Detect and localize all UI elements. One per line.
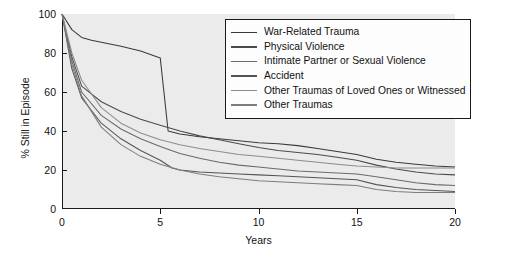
legend-label: War-Related Trauma: [264, 27, 359, 37]
legend-label: Other Traumas: [264, 100, 333, 110]
legend-swatch: [231, 90, 257, 92]
legend-label: Accident: [264, 71, 304, 81]
line-chart: 020406080100 05101520 % Still in Episode…: [0, 0, 508, 263]
x-tick-mark: [259, 209, 260, 214]
y-tick-label: 60: [44, 86, 56, 98]
x-tick-mark: [357, 209, 358, 214]
y-tick-mark: [62, 131, 67, 132]
legend-item: Accident: [231, 69, 464, 84]
legend-item: Intimate Partner or Sexual Violence: [231, 54, 464, 69]
legend-item: Physical Violence: [231, 40, 464, 55]
y-tick-mark: [62, 170, 67, 171]
y-tick-mark: [62, 53, 67, 54]
chart-legend: War-Related TraumaPhysical ViolenceIntim…: [225, 19, 471, 119]
y-tick-label: 0: [50, 203, 56, 215]
x-tick-label: 20: [449, 216, 461, 228]
legend-item: Other Traumas of Loved Ones or Witnessed: [231, 83, 464, 98]
legend-item: Other Traumas: [231, 98, 464, 113]
x-tick-mark: [160, 209, 161, 214]
x-tick-label: 15: [351, 216, 363, 228]
legend-swatch: [231, 75, 257, 77]
legend-label: Intimate Partner or Sexual Violence: [264, 56, 426, 66]
legend-item: War-Related Trauma: [231, 25, 464, 40]
y-tick-label: 40: [44, 125, 56, 137]
legend-swatch: [231, 61, 257, 63]
legend-swatch: [231, 32, 257, 34]
x-tick-mark: [455, 209, 456, 214]
y-axis-label: % Still in Episode: [19, 43, 31, 193]
legend-label: Other Traumas of Loved Ones or Witnessed: [264, 86, 465, 96]
legend-label: Physical Violence: [264, 42, 345, 52]
legend-swatch: [231, 46, 257, 48]
legend-swatch: [231, 104, 257, 106]
y-tick-mark: [62, 92, 67, 93]
x-tick-label: 5: [157, 216, 163, 228]
x-axis-label: Years: [62, 234, 455, 246]
x-tick-label: 10: [253, 216, 265, 228]
y-tick-label: 100: [38, 8, 56, 20]
x-tick-label: 0: [59, 216, 65, 228]
y-tick-label: 80: [44, 47, 56, 59]
y-tick-label: 20: [44, 164, 56, 176]
